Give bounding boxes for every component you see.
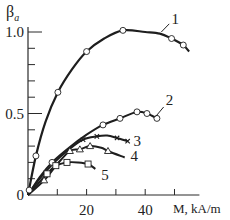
curve-label-3: 3 [133,133,141,149]
circle-marker [84,49,90,55]
circle-marker [26,187,32,193]
circle-marker [100,122,106,128]
curve-3 [28,135,128,195]
circle-marker [55,89,61,95]
y-axis-label-subscript: a [14,12,19,23]
square-marker [85,161,91,167]
curve-label-1: 1 [172,11,180,27]
circle-marker [144,111,150,117]
circle-marker [169,36,175,42]
circle-marker [120,27,126,33]
circle-marker [180,42,186,48]
x-tick-label: 40 [138,202,153,218]
y-axis-label: βa [6,4,19,23]
curve-label-4: 4 [131,148,139,164]
y-tick-label: 1.0 [5,24,24,40]
square-marker [64,159,70,165]
y-axis-label-symbol: β [6,3,14,20]
x-axis-label: M, kA/m [173,202,221,215]
square-marker [44,171,50,177]
leader-line-1 [161,24,169,32]
circle-marker [134,109,140,115]
chart-canvas: 00.51.02040 12345 [0,0,230,220]
y-tick-label: 0 [17,187,25,203]
curve-label-2: 2 [166,92,174,108]
curve-label-5: 5 [101,167,109,183]
x-tick-label: 20 [79,202,94,218]
square-marker [53,163,59,169]
y-tick-label: 0.5 [5,106,24,122]
circle-marker [154,115,160,121]
leader-line-2 [155,107,163,117]
circle-marker [117,115,123,121]
circle-marker [33,153,39,159]
